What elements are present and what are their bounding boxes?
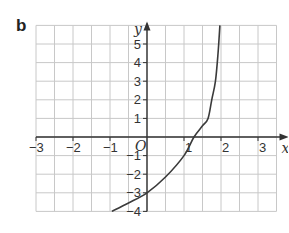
- origin-label: O: [135, 138, 147, 154]
- y-tick-label: 5: [134, 37, 141, 52]
- chart: −3−2−112354321−1−2−3−4xyO: [0, 0, 288, 233]
- x-tick-label: −2: [66, 140, 81, 155]
- x-axis-label: x: [282, 140, 289, 156]
- x-tick-label: 2: [222, 140, 229, 155]
- axes: [36, 21, 288, 211]
- x-tick-label: −3: [29, 140, 44, 155]
- y-tick-label: −2: [126, 167, 141, 182]
- y-tick-label: 2: [134, 92, 141, 107]
- x-tick-label: 3: [259, 140, 266, 155]
- y-tick-label: −4: [126, 204, 141, 219]
- y-tick-label: 1: [134, 111, 141, 126]
- y-tick-label: 4: [134, 55, 141, 70]
- y-tick-label: 3: [134, 74, 141, 89]
- grid: [36, 25, 277, 211]
- tick-labels: −3−2−112354321−1−2−3−4xyO: [29, 21, 288, 219]
- y-axis-label: y: [133, 21, 143, 37]
- x-tick-label: −1: [103, 140, 118, 155]
